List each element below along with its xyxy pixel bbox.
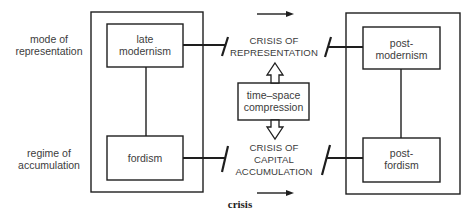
label-line: post-	[363, 147, 440, 159]
label-line: CRISIS OF	[224, 35, 324, 47]
label-line: compression	[238, 101, 309, 113]
postmodernism-label: post- modernism	[363, 37, 440, 61]
row-label-line: mode of	[6, 33, 92, 45]
bottom-right-arrow-icon	[257, 190, 294, 196]
crisis-footer-label: crisis	[215, 198, 265, 210]
hollow-up-arrow-icon	[267, 63, 283, 83]
post-fordism-label: post- fordism	[363, 147, 440, 171]
label-line: CRISIS OF	[224, 142, 324, 154]
top-right-arrow-icon	[257, 11, 294, 17]
label-line: fordism	[107, 152, 183, 164]
label-line: modernism	[363, 49, 440, 61]
row-label-regime-of-accumulation: regime of accumulation	[6, 147, 92, 171]
label-line: post-	[363, 37, 440, 49]
crisis-transition-diagram: mode of representation regime of accumul…	[0, 0, 473, 221]
fordism-label: fordism	[107, 152, 183, 164]
row-label-line: regime of	[6, 147, 92, 159]
row-label-line: representation	[6, 45, 92, 57]
crisis-of-capital-accumulation-label: CRISIS OF CAPITAL ACCUMULATION	[224, 142, 324, 179]
label-line: CAPITAL	[224, 154, 324, 166]
label-line: REPRESENTATION	[224, 47, 324, 59]
time-space-compression-label: time–space compression	[238, 89, 309, 113]
label-line: ACCUMULATION	[224, 166, 324, 178]
late-modernism-label: late modernism	[107, 33, 183, 57]
row-label-line: accumulation	[6, 159, 92, 171]
hollow-down-arrow-icon	[267, 120, 283, 139]
crisis-of-representation-label: CRISIS OF REPRESENTATION	[224, 35, 324, 59]
row-label-mode-of-representation: mode of representation	[6, 33, 92, 57]
label-line: fordism	[363, 159, 440, 171]
label-line: time–space	[238, 89, 309, 101]
label-line: late	[107, 33, 183, 45]
label-line: modernism	[107, 45, 183, 57]
